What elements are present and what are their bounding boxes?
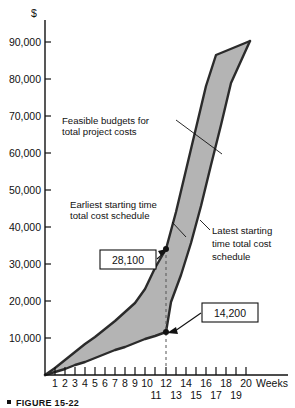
x-tick-label: 13 [170,389,182,401]
y-tick-label: 60,000 [9,147,41,159]
x-tick-label: 1 [52,377,58,389]
y-axis-title: $ [31,7,37,19]
callout-14200: 14,200 [163,303,258,335]
annotation-line: total cost schedule [70,210,149,221]
x-tick-label: 14 [180,377,192,389]
figure-caption: FIGURE 15-22 [7,398,79,408]
x-tick-label: 9 [132,377,138,389]
x-axis-ticks [55,367,246,375]
x-tick-label: 12 [160,377,172,389]
y-axis-ticks [45,42,51,338]
x-tick-label: 11 [151,389,162,401]
caption-bullet-icon [7,400,11,404]
callout-arrow [175,313,201,331]
x-tick-label: 2 [62,377,68,389]
figure-container: 10,000 20,000 30,000 40,000 50,000 60,00… [0,0,295,408]
callout-label: 28,100 [112,254,144,266]
y-tick-label: 80,000 [9,73,41,85]
callout-label: 14,200 [214,307,246,319]
y-tick-label: 50,000 [9,184,41,196]
y-tick-label: 10,000 [9,332,41,344]
x-tick-label: 18 [220,377,232,389]
annotation-earliest-schedule: Earliest starting time total cost schedu… [70,199,186,237]
x-axis-tick-labels-lower: 11 13 15 17 19 [151,389,242,401]
annotation-latest-schedule: Latest starting time total cost schedule [200,220,272,262]
x-tick-label: 6 [102,377,108,389]
annotation-line: Latest starting [212,225,272,236]
x-tick-label: 10 [141,377,153,389]
data-point-marker [163,329,169,335]
x-axis-title: Weeks [256,377,288,389]
data-point-marker [163,246,169,252]
annotation-line: Earliest starting time [70,199,157,210]
x-tick-label: 20 [240,377,252,389]
x-tick-label: 8 [122,377,128,389]
x-tick-label: 5 [92,377,98,389]
annotation-line: schedule [212,251,250,262]
x-tick-label: 7 [112,377,118,389]
y-tick-label: 90,000 [9,36,41,48]
x-tick-label: 17 [210,389,222,401]
y-tick-label: 30,000 [9,258,41,270]
leader-line [200,220,210,230]
annotation-line: time total cost [212,238,272,249]
x-tick-label: 19 [230,389,242,401]
x-tick-label: 16 [200,377,212,389]
y-tick-label: 20,000 [9,295,41,307]
cost-schedule-chart: 10,000 20,000 30,000 40,000 50,000 60,00… [0,0,295,408]
caption-text: FIGURE 15-22 [16,398,79,408]
annotation-line: total project costs [62,126,137,137]
y-axis-tick-labels: 10,000 20,000 30,000 40,000 50,000 60,00… [9,36,41,344]
x-axis-tick-labels-upper: 1 2 3 4 5 6 7 8 9 10 12 14 16 18 20 [52,377,252,389]
y-tick-label: 40,000 [9,221,41,233]
x-tick-label: 3 [72,377,78,389]
x-tick-label: 4 [82,377,88,389]
x-tick-label: 15 [190,389,202,401]
annotation-line: Feasible budgets for [62,115,150,126]
y-tick-label: 70,000 [9,110,41,122]
